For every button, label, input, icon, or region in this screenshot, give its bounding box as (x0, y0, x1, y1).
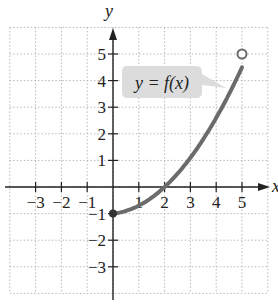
y-tick-label: −2 (88, 231, 106, 250)
x-tick-label: −2 (52, 193, 70, 212)
closed-endpoint-icon (109, 210, 117, 218)
open-endpoint-icon (238, 50, 247, 59)
y-axis-label: y (103, 1, 113, 21)
y-tick-label: 1 (98, 151, 107, 170)
y-tick-label: 3 (98, 98, 107, 117)
x-tick-label: 4 (212, 193, 221, 212)
y-tick-label: 5 (98, 45, 107, 64)
y-tick-label: −1 (88, 205, 106, 224)
x-tick-label: 3 (186, 193, 195, 212)
callout-label: y = f(x) (133, 73, 189, 94)
x-axis-label: x (271, 176, 278, 196)
x-tick-label: −3 (27, 193, 45, 212)
x-tick-label: 5 (238, 193, 247, 212)
y-tick-label: 2 (98, 125, 107, 144)
function-callout: y = f(x) (122, 66, 226, 98)
y-axis-arrow-icon (109, 28, 117, 40)
y-tick-label: −3 (88, 258, 106, 277)
x-tick-label: 2 (160, 193, 169, 212)
y-tick-label: 4 (98, 72, 107, 91)
function-graph: y = f(x) −3−2−11234554321−1−2−3 y x (0, 0, 278, 308)
